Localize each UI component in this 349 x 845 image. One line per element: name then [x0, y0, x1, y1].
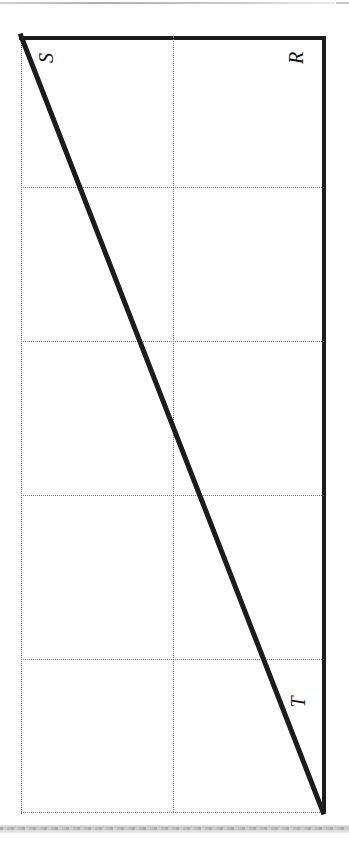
plot-area [21, 36, 324, 812]
axis-bottom-dotted [21, 812, 324, 813]
figure-page: S R T [0, 0, 349, 845]
scan-artifact-top-right [336, 2, 349, 4]
point-label-T: T [288, 696, 308, 707]
series-line-ST [21, 36, 324, 812]
scan-artifact-bottom-speckle [0, 827, 349, 830]
point-label-S: S [36, 53, 56, 63]
line-segment-S-to-T [21, 36, 323, 812]
point-label-R: R [286, 52, 306, 64]
scan-artifact-top [0, 2, 335, 4]
